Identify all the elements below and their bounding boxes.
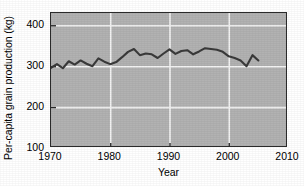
x-tick-label: 1970 [30, 150, 70, 162]
y-tick-label: 200 [18, 101, 44, 112]
y-axis-label: Per-capita grain production (kg) [1, 8, 15, 168]
x-tick-label: 1990 [149, 150, 189, 162]
gridlines [51, 13, 287, 147]
y-tick-label: 400 [18, 19, 44, 30]
plot-svg [51, 13, 287, 147]
x-tick-label: 1980 [89, 150, 129, 162]
data-series-line [51, 48, 258, 68]
chart-figure: Per-capita grain production (kg) 400 300… [0, 0, 304, 186]
plot-area [50, 12, 287, 147]
x-axis-ticks: 1970 1980 1990 2000 2010 [0, 150, 304, 164]
x-axis-label: Year [50, 166, 287, 178]
x-tick-label: 2010 [267, 150, 304, 162]
x-tick-label: 2000 [208, 150, 248, 162]
y-tick-label: 300 [18, 60, 44, 71]
